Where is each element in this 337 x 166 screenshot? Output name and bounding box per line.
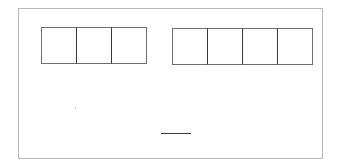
stray-mark: [75, 107, 76, 109]
left-box-3[interactable]: [111, 27, 147, 64]
answer-line: [161, 133, 191, 134]
right-box-4[interactable]: [277, 28, 313, 65]
left-box-group: [41, 27, 147, 64]
left-box-2[interactable]: [76, 27, 112, 64]
right-box-group: [172, 28, 313, 65]
right-box-3[interactable]: [242, 28, 278, 65]
left-box-1[interactable]: [41, 27, 77, 64]
puzzle-frame: [18, 8, 323, 159]
right-box-2[interactable]: [207, 28, 243, 65]
right-box-1[interactable]: [172, 28, 208, 65]
